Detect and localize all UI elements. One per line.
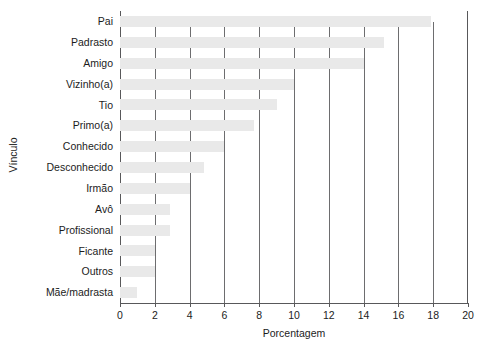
x-axis-tick-label: 6: [221, 309, 227, 321]
x-axis-tick: [259, 303, 260, 307]
y-axis-tick-label: Padrasto: [22, 32, 118, 53]
bar-row: [120, 74, 468, 95]
x-axis-tick: [155, 303, 156, 307]
x-axis-tick-label: 14: [358, 309, 370, 321]
x-axis-tick: [190, 303, 191, 307]
bar-row: [120, 53, 468, 74]
y-axis-tick-label: Desconhecido: [22, 157, 118, 178]
y-axis-tick-label: Tio: [22, 94, 118, 115]
y-axis-tick-label: Avô: [22, 199, 118, 220]
bar: [120, 162, 204, 173]
bars-layer: [120, 11, 468, 303]
x-axis-tick: [433, 303, 434, 307]
bar-chart: Vínculo PaiPadrastoAmigoVizinho(a)TioPri…: [0, 0, 491, 356]
x-axis-tick-label: 8: [256, 309, 262, 321]
x-axis-tick: [294, 303, 295, 307]
bar: [120, 204, 170, 215]
y-axis-tick-label: Primo(a): [22, 115, 118, 136]
bar-row: [120, 261, 468, 282]
x-axis-tick: [224, 303, 225, 307]
x-axis-tick-label: 20: [462, 309, 474, 321]
x-axis-tick-label: 18: [427, 309, 439, 321]
bar-row: [120, 178, 468, 199]
bar: [120, 287, 137, 298]
y-axis-tick-labels: PaiPadrastoAmigoVizinho(a)TioPrimo(a)Con…: [22, 11, 118, 303]
y-axis-tick-label: Mãe/madrasta: [22, 282, 118, 303]
bar: [120, 58, 364, 69]
bar: [120, 245, 155, 256]
x-axis-tick-label: 12: [323, 309, 335, 321]
y-axis-tick-label: Amigo: [22, 53, 118, 74]
x-axis-tick: [120, 303, 121, 307]
bar: [120, 183, 190, 194]
y-axis-tick-label: Profissional: [22, 220, 118, 241]
bar-row: [120, 282, 468, 303]
x-axis-tick: [329, 303, 330, 307]
x-axis-tick: [364, 303, 365, 307]
bar-row: [120, 94, 468, 115]
bar: [120, 141, 224, 152]
bar-row: [120, 32, 468, 53]
bar-row: [120, 220, 468, 241]
x-axis-tick: [398, 303, 399, 307]
bar: [120, 99, 277, 110]
y-axis-tick-label: Conhecido: [22, 136, 118, 157]
plot-area: [120, 11, 468, 303]
bar: [120, 79, 294, 90]
x-axis-tick-label: 16: [393, 309, 405, 321]
bar: [120, 266, 155, 277]
y-axis-tick-label: Vizinho(a): [22, 74, 118, 95]
x-axis-tick-label: 0: [117, 309, 123, 321]
x-axis-tick: [468, 303, 469, 307]
y-axis-title-text: Vínculo: [7, 137, 19, 172]
y-axis-tick-label: Pai: [22, 11, 118, 32]
y-axis-tick-label: Irmão: [22, 178, 118, 199]
bar: [120, 37, 384, 48]
x-axis-tick-label: 10: [288, 309, 300, 321]
bar-row: [120, 11, 468, 32]
bar-row: [120, 157, 468, 178]
x-axis-tick-label: 4: [187, 309, 193, 321]
x-axis-title: Porcentagem: [120, 327, 468, 339]
bar-row: [120, 136, 468, 157]
x-axis-tick-label: 2: [152, 309, 158, 321]
bar-row: [120, 199, 468, 220]
y-axis-tick-label: Outros: [22, 261, 118, 282]
y-axis-tick-label: Ficante: [22, 240, 118, 261]
bar: [120, 16, 431, 27]
bar-row: [120, 240, 468, 261]
bar: [120, 225, 170, 236]
bar: [120, 120, 254, 131]
bar-row: [120, 115, 468, 136]
